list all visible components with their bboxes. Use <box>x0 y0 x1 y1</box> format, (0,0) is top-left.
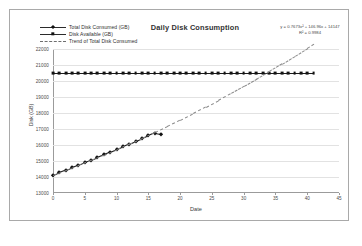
legend-label: Trend of Total Disk Consumed <box>69 38 137 44</box>
data-point <box>109 72 112 75</box>
data-point <box>230 72 233 75</box>
y-axis-tick-label: 21000 <box>36 63 49 68</box>
gridline <box>53 129 339 130</box>
x-axis-tick-mark <box>148 193 149 195</box>
data-point <box>306 72 309 75</box>
trendline-segment <box>244 79 257 87</box>
y-axis-tick-label: 17000 <box>36 127 49 132</box>
data-point <box>293 72 296 75</box>
data-point <box>191 72 194 75</box>
x-axis-line <box>53 192 339 193</box>
data-point <box>204 72 207 75</box>
x-axis-tick-label: 35 <box>273 196 278 201</box>
y-axis-tick-label: 15000 <box>36 159 49 164</box>
data-point <box>128 72 131 75</box>
trendline-segment <box>231 86 244 94</box>
legend-key-diamond-line <box>40 23 66 30</box>
data-point <box>299 72 302 75</box>
data-point <box>77 72 80 75</box>
data-point <box>102 72 105 75</box>
data-point <box>287 72 290 75</box>
y-axis-tick-label: 20000 <box>36 79 49 84</box>
legend-item-disk-available[interactable]: Disk Available (GB) <box>40 30 137 37</box>
data-point <box>147 72 150 75</box>
x-axis-tick-mark <box>307 193 308 195</box>
trendline-segment <box>282 56 295 65</box>
x-axis-tick-label: 0 <box>52 196 55 201</box>
x-axis-tick-label: 25 <box>209 196 214 201</box>
x-axis-tick-mark <box>180 193 181 195</box>
data-point <box>96 72 99 75</box>
y-axis-title: Disk (GB) <box>28 104 34 126</box>
legend-key-square-line <box>40 31 66 38</box>
legend-key-dashed-line <box>40 38 66 45</box>
data-point <box>210 72 213 75</box>
x-axis-tick-mark <box>53 193 54 195</box>
x-axis-tick-mark <box>275 193 276 195</box>
data-point <box>58 72 61 75</box>
gridline <box>53 145 339 146</box>
chart-title: Daily Disk Consumption <box>130 23 260 32</box>
x-axis-tick-mark <box>339 193 340 195</box>
x-axis-tick-mark <box>244 193 245 195</box>
x-axis-tick-label: 10 <box>114 196 119 201</box>
gridline <box>53 177 339 178</box>
trendline-r-squared: R² = 0.9984 <box>262 30 358 36</box>
y-axis-tick-label: 22000 <box>36 47 49 52</box>
x-axis-tick-label: 20 <box>178 196 183 201</box>
chart-container: Daily Disk Consumption Total Disk Consum… <box>9 9 349 221</box>
data-point <box>90 72 93 75</box>
data-point <box>280 72 283 75</box>
data-point <box>223 72 226 75</box>
data-point <box>115 72 118 75</box>
x-axis-tick-label: 5 <box>83 196 86 201</box>
data-point <box>242 72 245 75</box>
data-point <box>64 72 67 75</box>
y-axis-line <box>53 49 54 193</box>
trendline-segment <box>167 120 180 127</box>
data-point <box>179 72 182 75</box>
gridline <box>53 161 339 162</box>
x-axis-tick-label: 40 <box>305 196 310 201</box>
legend-label: Total Disk Consumed (GB) <box>69 24 129 30</box>
x-axis-tick-label: 45 <box>336 196 341 201</box>
plot-area: 1300014000150001600017000180001900020000… <box>53 49 339 193</box>
legend-label: Disk Available (GB) <box>69 31 113 37</box>
data-point <box>172 72 175 75</box>
legend-item-trend[interactable]: Trend of Total Disk Consumed <box>40 38 137 45</box>
legend-item-total-disk-consumed[interactable]: Total Disk Consumed (GB) <box>40 23 137 30</box>
chart-legend: Total Disk Consumed (GB) Disk Available … <box>40 23 137 45</box>
x-axis-tick-mark <box>212 193 213 195</box>
x-axis-tick-label: 30 <box>241 196 246 201</box>
y-axis-tick-label: 18000 <box>36 111 49 116</box>
data-point <box>52 72 55 75</box>
x-axis-title: Date <box>53 206 339 212</box>
data-point <box>217 72 220 75</box>
x-axis-tick-label: 15 <box>146 196 151 201</box>
data-point <box>198 72 201 75</box>
data-point <box>122 72 125 75</box>
gridline <box>53 81 339 82</box>
data-point <box>166 72 169 75</box>
data-point <box>159 132 163 136</box>
x-axis-tick-mark <box>85 193 86 195</box>
data-point <box>83 72 86 75</box>
data-point <box>236 72 239 75</box>
gridline <box>53 49 339 50</box>
trendline-segment <box>206 100 219 108</box>
data-point <box>71 72 74 75</box>
gridline <box>53 65 339 66</box>
y-axis-tick-label: 19000 <box>36 95 49 100</box>
data-point <box>255 72 258 75</box>
data-point <box>249 72 252 75</box>
y-axis-tick-label: 14000 <box>36 175 49 180</box>
trendline-equation-annotation: y = 0.7673x² + 146.96x + 14147 R² = 0.99… <box>262 24 358 36</box>
data-point <box>134 72 137 75</box>
gridline <box>53 113 339 114</box>
data-point <box>160 72 163 75</box>
y-axis-tick-label: 13000 <box>36 191 49 196</box>
data-point <box>274 72 277 75</box>
data-point <box>153 72 156 75</box>
data-point <box>141 72 144 75</box>
trendline-segment <box>180 113 193 120</box>
